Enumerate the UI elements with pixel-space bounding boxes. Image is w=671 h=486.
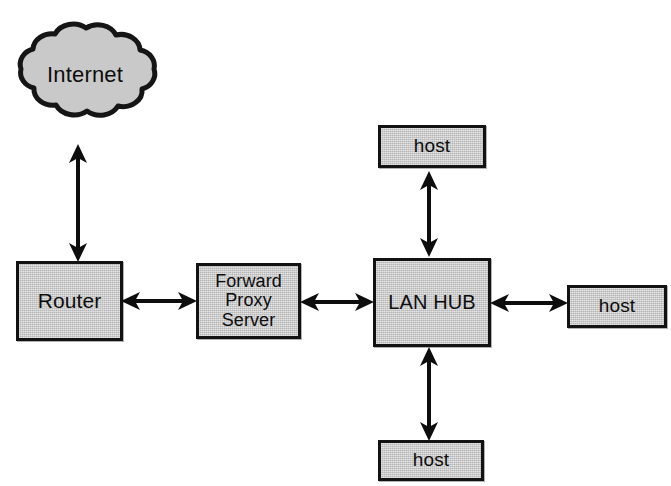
node-host-bottom-label: host	[413, 450, 449, 471]
node-lan-hub-label: LAN HUB	[388, 292, 475, 314]
node-host-top: host	[378, 125, 486, 168]
node-host-top-label: host	[414, 136, 450, 157]
node-router-label: Router	[38, 290, 102, 313]
connector-lan-hub-host-bottom	[414, 346, 444, 442]
connector-lan-hub-host-right	[489, 288, 569, 318]
connector-proxy-lan-hub	[299, 287, 375, 317]
node-router: Router	[16, 261, 123, 341]
node-host-right-label: host	[599, 296, 635, 317]
node-internet-cloud: Internet	[8, 16, 162, 134]
connector-internet-router	[62, 143, 94, 263]
node-host-right: host	[567, 285, 667, 328]
connector-lan-hub-host-top	[414, 170, 444, 258]
node-host-bottom: host	[378, 440, 484, 481]
connector-router-proxy	[120, 286, 198, 316]
node-forward-proxy-server-label: Forward Proxy Server	[215, 272, 282, 330]
node-forward-proxy-server: Forward Proxy Server	[196, 263, 301, 339]
node-lan-hub: LAN HUB	[373, 258, 491, 347]
node-internet-label: Internet	[8, 62, 162, 88]
network-diagram-canvas: Internet Router Forward Proxy Server	[0, 0, 671, 486]
